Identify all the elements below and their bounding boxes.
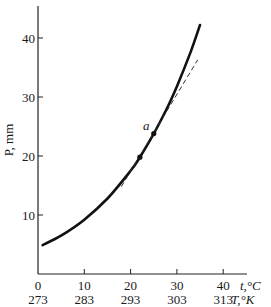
y-tick-label: 20 — [22, 149, 35, 164]
x-secondary-tick-label: 303 — [167, 292, 187, 307]
x-secondary-tick-label: 273 — [28, 292, 48, 307]
x-axis-label: t,°C — [240, 278, 261, 293]
axes — [38, 6, 247, 274]
pressure-curve — [43, 25, 200, 245]
y-tick-label: 40 — [22, 31, 35, 46]
point-a-annotation: a — [143, 118, 150, 133]
data-point — [137, 155, 142, 160]
y-tick-label: 10 — [22, 208, 35, 223]
x-tick-label: 0 — [35, 278, 42, 293]
y-axis-label: P, mm — [1, 124, 16, 157]
data-point — [151, 131, 156, 136]
series — [43, 25, 200, 245]
ticks — [38, 38, 223, 274]
x-tick-label: 20 — [124, 278, 137, 293]
x-tick-label: 10 — [78, 278, 91, 293]
x-axis-secondary-label: T,°K — [231, 292, 256, 307]
x-secondary-tick-label: 293 — [121, 292, 141, 307]
x-tick-label: 40 — [217, 278, 230, 293]
y-tick-label: 30 — [22, 90, 35, 105]
x-secondary-tick-label: 283 — [75, 292, 95, 307]
vapor-pressure-chart: 02731028320293303034031310203040t,°CT,°K… — [0, 0, 271, 307]
x-tick-label: 30 — [170, 278, 183, 293]
